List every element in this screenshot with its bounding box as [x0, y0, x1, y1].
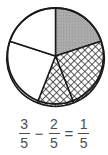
pie-chart — [0, 0, 108, 112]
equals-operator: = — [65, 126, 74, 141]
fraction-minuend: 3 5 — [19, 117, 30, 150]
minuend-denominator: 5 — [20, 135, 28, 150]
pie-chart-container — [0, 0, 108, 112]
fraction-result: 1 5 — [78, 117, 89, 150]
equation: 3 5 − 2 5 = 1 5 — [0, 112, 108, 155]
figure-root: 3 5 − 2 5 = 1 5 — [0, 0, 108, 155]
fraction-subtrahend: 2 5 — [49, 117, 60, 150]
subtrahend-fraction-bar — [49, 133, 60, 134]
minuend-numerator: 3 — [20, 117, 28, 132]
subtrahend-numerator: 2 — [50, 117, 58, 132]
minus-operator: − — [35, 126, 44, 141]
result-fraction-bar — [78, 133, 89, 134]
result-denominator: 5 — [80, 135, 88, 150]
result-numerator: 1 — [80, 117, 88, 132]
subtrahend-denominator: 5 — [50, 135, 58, 150]
minuend-fraction-bar — [19, 133, 30, 134]
